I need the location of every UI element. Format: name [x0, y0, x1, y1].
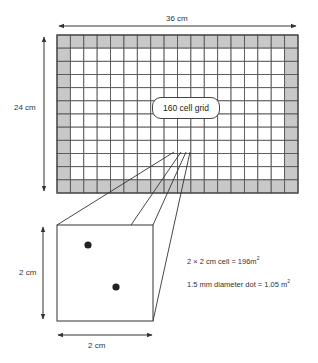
border-cell — [285, 154, 298, 167]
grid-cell — [244, 61, 257, 74]
grid-cell — [151, 167, 164, 180]
border-cell — [285, 127, 298, 140]
grid-cell — [124, 154, 137, 167]
cell-area-superscript: 2 — [257, 255, 260, 261]
sampling-grid-diagram — [0, 0, 318, 363]
border-cell — [57, 61, 70, 74]
grid-cell — [151, 127, 164, 140]
grid-cell — [191, 167, 204, 180]
grid-cell — [258, 167, 271, 180]
grid-cell — [111, 154, 124, 167]
border-cell — [111, 180, 124, 193]
grid-cell — [137, 48, 150, 61]
grid-cell — [178, 75, 191, 88]
border-cell — [151, 35, 164, 48]
grid-cell — [178, 140, 191, 153]
border-cell — [258, 35, 271, 48]
grid-cell — [271, 140, 284, 153]
grid-cell — [258, 140, 271, 153]
border-cell — [57, 167, 70, 180]
grid-cell — [70, 140, 83, 153]
grid-cell — [84, 140, 97, 153]
grid-cell — [84, 75, 97, 88]
border-cell — [231, 180, 244, 193]
grid-cell — [97, 167, 110, 180]
grid-cell — [70, 127, 83, 140]
border-cell — [271, 180, 284, 193]
border-cell — [57, 101, 70, 114]
grid-cell — [178, 48, 191, 61]
border-cell — [231, 35, 244, 48]
border-cell — [285, 140, 298, 153]
grid-cell — [271, 75, 284, 88]
grid-cell — [137, 75, 150, 88]
grid-cell — [124, 101, 137, 114]
grid-cell — [244, 48, 257, 61]
grid-cell — [111, 127, 124, 140]
grid-cell — [244, 75, 257, 88]
grid-cell — [191, 154, 204, 167]
border-cell — [84, 35, 97, 48]
grid-cell — [124, 48, 137, 61]
cell-height-label: 2 cm — [19, 268, 36, 277]
dot-marker — [84, 241, 91, 248]
border-cell — [57, 140, 70, 153]
grid-cell — [70, 114, 83, 127]
grid-cell — [258, 154, 271, 167]
grid-cell — [97, 75, 110, 88]
grid-cell — [84, 88, 97, 101]
grid-cell — [151, 61, 164, 74]
grid-cell — [84, 61, 97, 74]
grid-cell — [70, 48, 83, 61]
grid-cell — [137, 101, 150, 114]
grid-cell — [84, 167, 97, 180]
grid-cell — [97, 127, 110, 140]
grid-cell — [191, 140, 204, 153]
grid-cell — [271, 48, 284, 61]
grid-cell — [244, 140, 257, 153]
grid-cell — [84, 48, 97, 61]
grid-cell — [244, 154, 257, 167]
grid-cell — [111, 114, 124, 127]
grid-cell — [271, 127, 284, 140]
grid-cell — [84, 101, 97, 114]
grid-cell — [231, 127, 244, 140]
grid-cell — [151, 154, 164, 167]
border-cell — [70, 35, 83, 48]
grid-cell — [258, 127, 271, 140]
grid-cell — [84, 154, 97, 167]
grid-cell — [244, 127, 257, 140]
grid-cell — [111, 75, 124, 88]
grid-cell — [258, 61, 271, 74]
enlarged-cell — [57, 225, 153, 321]
grid-label-callout: 160 cell grid — [152, 97, 220, 119]
grid-cell — [218, 61, 231, 74]
border-cell — [285, 35, 298, 48]
border-cell — [70, 180, 83, 193]
cell-width-label: 2 cm — [88, 341, 105, 350]
grid-cell — [70, 154, 83, 167]
grid-cell — [191, 75, 204, 88]
grid-cell — [151, 140, 164, 153]
grid-cell — [111, 48, 124, 61]
border-cell — [258, 180, 271, 193]
grid-cell — [271, 88, 284, 101]
border-cell — [285, 101, 298, 114]
grid-cell — [218, 48, 231, 61]
grid-cell — [218, 75, 231, 88]
grid-cell — [218, 114, 231, 127]
border-cell — [285, 61, 298, 74]
grid-cell — [164, 140, 177, 153]
dot-marker — [112, 283, 119, 290]
grid-cell — [137, 154, 150, 167]
grid-cell — [191, 48, 204, 61]
grid-cell — [137, 88, 150, 101]
grid-cell — [70, 167, 83, 180]
grid-cell — [70, 61, 83, 74]
border-cell — [57, 180, 70, 193]
grid-cell — [164, 48, 177, 61]
grid-cell — [70, 75, 83, 88]
grid-cell — [124, 88, 137, 101]
grid-cell — [124, 114, 137, 127]
grid-cell — [97, 114, 110, 127]
